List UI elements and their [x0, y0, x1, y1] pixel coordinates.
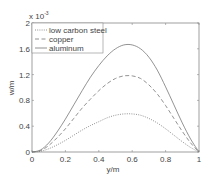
legend-label-aluminum: aluminum — [49, 44, 84, 53]
y-tick-label: 1.6 — [19, 45, 31, 54]
x-tick-label: 0.6 — [127, 155, 139, 164]
y-tick-label: 0 — [26, 148, 31, 157]
legend-label-steel: low carbon steel — [49, 26, 107, 35]
x-tick-label: 0.8 — [160, 155, 172, 164]
x-tick-label: 0.2 — [60, 155, 72, 164]
legend-label-copper: copper — [49, 35, 74, 44]
x-tick-label: 1 — [197, 155, 202, 164]
y-tick-label: 0.4 — [19, 122, 31, 131]
y-tick-label: 1.2 — [19, 71, 31, 80]
x-axis-label: y/m — [107, 165, 120, 174]
legend: low carbon steel copper aluminum — [32, 23, 107, 53]
y-axis-label: w/m — [7, 80, 16, 96]
y-multiplier: x 10-3 — [29, 10, 49, 21]
x-tick-label: 0 — [30, 155, 35, 164]
x-tick-label: 0.4 — [93, 155, 105, 164]
line-chart: 00.20.40.60.81 00.40.81.21.62 x 10-3 y/m… — [0, 0, 211, 178]
y-tick-label: 0.8 — [19, 96, 31, 105]
x-tick-labels: 00.20.40.60.81 — [30, 155, 202, 164]
y-tick-labels: 00.40.81.21.62 — [19, 19, 31, 157]
